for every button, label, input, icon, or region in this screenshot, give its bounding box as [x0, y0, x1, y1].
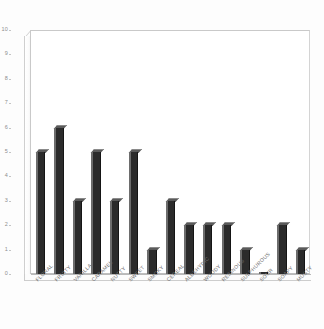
bar-slot [184, 30, 194, 274]
y-axis-tick-mark [9, 176, 11, 177]
bar[interactable] [36, 149, 46, 274]
y-axis: 012345678910 [0, 0, 30, 329]
y-axis-tick-label: 3 [5, 198, 8, 204]
bar-slot [129, 30, 139, 274]
bar-front-face [131, 152, 139, 274]
y-axis-tick-mark [9, 152, 11, 153]
y-axis-tick-label: 2 [5, 222, 8, 228]
y-axis-tick-mark [9, 128, 11, 129]
bar[interactable] [54, 125, 64, 274]
bar[interactable] [91, 149, 101, 274]
y-axis-tick-label: 4 [5, 174, 8, 180]
y-axis-tick-label: 6 [5, 125, 8, 131]
bar-front-face [93, 152, 101, 274]
bar-front-face [38, 152, 46, 274]
bar-front-face [168, 201, 176, 274]
bar-slot [222, 30, 232, 274]
y-axis-tick-label: 1 [5, 247, 8, 253]
y-axis-tick-mark [9, 79, 11, 80]
bars-layer [31, 30, 310, 274]
bar-slot [296, 30, 306, 274]
bar-chart: 012345678910 FLORALFRUITYVANILLACARAMELN… [0, 0, 324, 329]
bar-slot [259, 30, 269, 274]
bar-front-face [205, 225, 213, 274]
bar-slot [110, 30, 120, 274]
bar-slot [166, 30, 176, 274]
y-axis-tick-label: 5 [5, 149, 8, 155]
y-axis-tick-label: 9 [5, 52, 8, 58]
y-axis-tick-mark [9, 274, 11, 275]
bar[interactable] [203, 222, 213, 274]
y-axis-tick-label: 10 [1, 27, 8, 33]
bar-front-face [75, 201, 83, 274]
bar-slot [240, 30, 250, 274]
bar-slot [36, 30, 46, 274]
bar[interactable] [222, 222, 232, 274]
bar-slot [54, 30, 64, 274]
y-axis-tick-label: 0 [5, 271, 8, 277]
y-axis-tick-label: 7 [5, 100, 8, 106]
y-axis-tick-label: 8 [5, 76, 8, 82]
bar[interactable] [166, 198, 176, 274]
y-axis-tick-mark [9, 201, 11, 202]
bar-slot [73, 30, 83, 274]
y-axis-tick-mark [9, 30, 11, 31]
bar-slot [277, 30, 287, 274]
bar[interactable] [277, 222, 287, 274]
bar-front-face [186, 225, 194, 274]
y-axis-tick-mark [9, 54, 11, 55]
bar-slot [203, 30, 213, 274]
bar[interactable] [129, 149, 139, 274]
y-axis-tick-mark [9, 103, 11, 104]
bar-front-face [279, 225, 287, 274]
x-axis-labels: FLORALFRUITYVANILLACARAMELNUTTYSWEETSMOK… [31, 277, 310, 329]
y-axis-tick-mark [9, 225, 11, 226]
bar-slot [147, 30, 157, 274]
bar-front-face [56, 128, 64, 274]
y-axis-tick-mark [9, 250, 11, 251]
bar[interactable] [73, 198, 83, 274]
bar-slot [91, 30, 101, 274]
